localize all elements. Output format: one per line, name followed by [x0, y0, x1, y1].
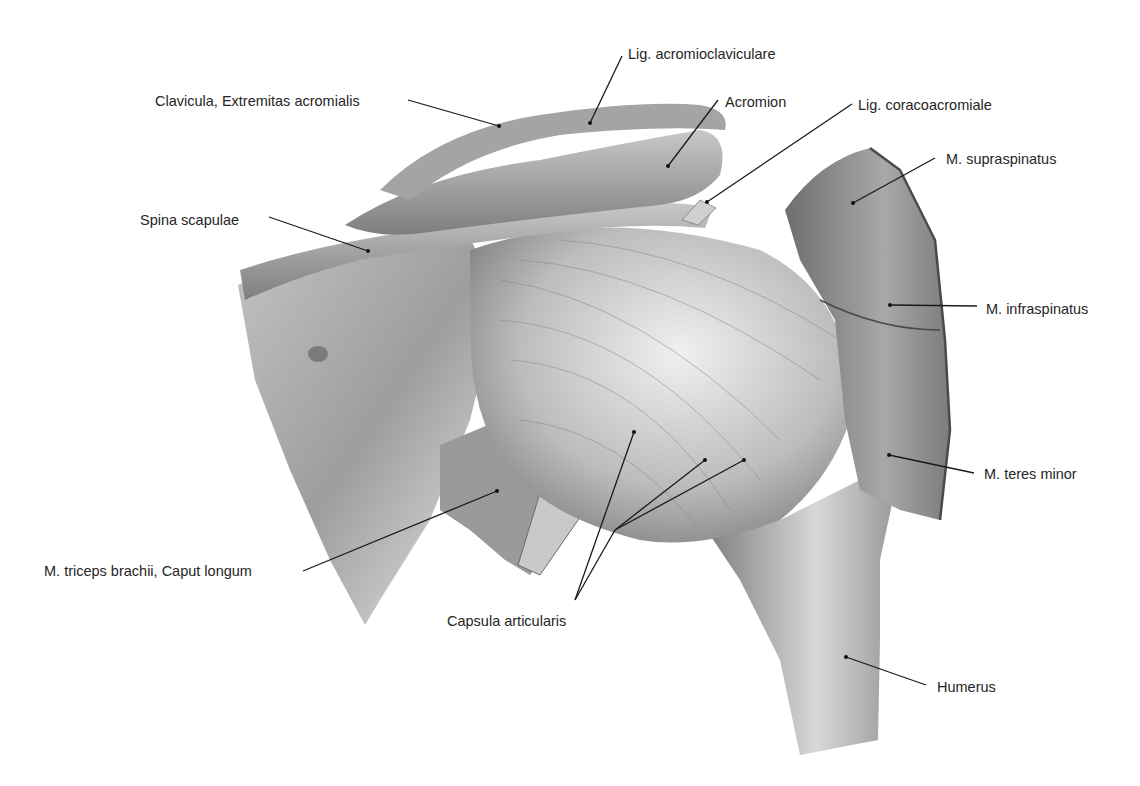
label-lig-acromioclaviculare: Lig. acromioclaviculare [628, 46, 775, 63]
label-m-infraspinatus: M. infraspinatus [986, 301, 1088, 318]
leader-lines [0, 0, 1140, 786]
anatomy-figure: Lig. acromioclaviculare Clavicula, Extre… [0, 0, 1140, 786]
label-m-triceps: M. triceps brachii, Caput longum [44, 563, 252, 580]
label-m-teres-minor: M. teres minor [984, 466, 1077, 483]
label-humerus: Humerus [937, 679, 996, 696]
label-lig-coracoacromiale: Lig. coracoacromiale [858, 97, 992, 114]
label-capsula-articularis: Capsula articularis [447, 613, 566, 630]
label-acromion: Acromion [725, 94, 786, 111]
label-spina-scapulae: Spina scapulae [140, 212, 239, 229]
label-clavicula: Clavicula, Extremitas acromialis [155, 93, 360, 110]
label-m-supraspinatus: M. supraspinatus [946, 151, 1056, 168]
